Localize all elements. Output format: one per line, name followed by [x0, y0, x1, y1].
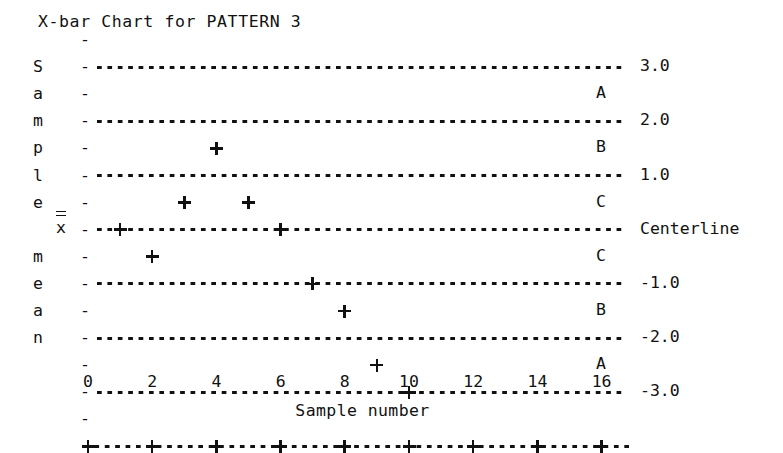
x-axis-tick: [467, 440, 480, 453]
y-axis-tick: -: [79, 193, 91, 212]
x-axis-tick-label: 4: [196, 372, 236, 391]
x-axis-tick: [595, 440, 608, 453]
zone-label: B: [592, 300, 610, 319]
data-point: [306, 277, 319, 290]
y-axis-caption-letter: p: [30, 138, 46, 157]
y-axis-tick: -: [79, 328, 91, 347]
control-limit-label: 3.0: [640, 56, 670, 75]
x-axis-tick-label: 12: [453, 372, 493, 391]
x-axis-tick: [403, 440, 416, 453]
zone-label: A: [592, 83, 610, 102]
y-axis-caption-letter: a: [30, 84, 46, 103]
y-axis-caption-letter: m: [30, 247, 46, 266]
data-point: [178, 196, 191, 209]
data-point: [210, 142, 223, 155]
y-axis-tick: -: [79, 111, 91, 130]
zone-label: A: [592, 354, 610, 373]
x-double-bar-symbol: x: [52, 220, 70, 237]
x-axis-tick: [210, 440, 223, 453]
data-point: [114, 223, 127, 236]
y-axis-caption-letter: m: [30, 111, 46, 130]
page-title: X-bar Chart for PATTERN 3: [38, 12, 301, 31]
x-axis-tick: [338, 440, 351, 453]
zone-label: C: [592, 192, 610, 211]
x-axis-tick-label: 6: [261, 372, 301, 391]
gridline: [97, 337, 624, 340]
y-axis-tick: -: [79, 138, 91, 157]
control-limit-label: -2.0: [640, 327, 680, 346]
x-axis-tick-label: 14: [517, 372, 557, 391]
x-axis-tick-label: 16: [582, 372, 622, 391]
control-limit-label: -3.0: [640, 381, 680, 400]
y-axis-caption-letter: S: [30, 57, 46, 76]
gridline: [97, 282, 624, 285]
x-axis-tick: [82, 440, 95, 453]
data-point: [146, 250, 159, 263]
y-axis-caption-letter: l: [30, 166, 46, 185]
x-axis-tick-label: 8: [325, 372, 365, 391]
gridline: [97, 228, 624, 231]
gridline: [97, 120, 624, 123]
y-axis-caption-letter: e: [30, 274, 46, 293]
x-axis-tick: [146, 440, 159, 453]
control-limit-label: 1.0: [640, 165, 670, 184]
gridline: [97, 66, 624, 69]
x-axis-title: Sample number: [0, 401, 783, 420]
y-axis-tick: -: [79, 301, 91, 320]
y-axis-tick: -: [79, 30, 91, 49]
control-limit-label: 2.0: [640, 110, 670, 129]
x-axis-tick-label: 2: [132, 372, 172, 391]
data-point: [370, 359, 383, 372]
zone-label: C: [592, 246, 610, 265]
x-axis-title-text: Sample number: [295, 401, 429, 420]
y-axis-tick: -: [79, 274, 91, 293]
zone-label: B: [592, 137, 610, 156]
y-axis-caption-letter: n: [30, 328, 46, 347]
x-axis-tick: [531, 440, 544, 453]
x-axis-line: [84, 445, 630, 448]
control-limit-label: -1.0: [640, 273, 680, 292]
data-point: [274, 223, 287, 236]
x-axis-tick-label: 10: [389, 372, 429, 391]
gridline: [97, 174, 624, 177]
control-limit-label: Centerline: [640, 219, 739, 238]
y-axis-tick: -: [79, 247, 91, 266]
x-axis-tick-label: 0: [68, 372, 108, 391]
y-axis-caption-letter: e: [30, 193, 46, 212]
y-axis-tick: -: [79, 166, 91, 185]
y-axis-tick: -: [79, 84, 91, 103]
data-point: [338, 305, 351, 318]
y-axis-caption-letter: a: [30, 301, 46, 320]
y-axis-tick: -: [79, 220, 91, 239]
data-point: [242, 196, 255, 209]
y-axis-tick: -: [79, 57, 91, 76]
x-axis-tick: [274, 440, 287, 453]
gridline: [97, 391, 624, 394]
